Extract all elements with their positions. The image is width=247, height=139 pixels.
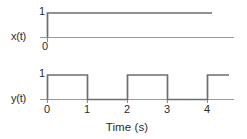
top-plot-group xyxy=(40,13,234,42)
x-tick-label-2: 2 xyxy=(120,104,134,115)
top-origin-zero-label: 0 xyxy=(42,41,48,52)
x-axis-title: Time (s) xyxy=(86,122,168,134)
x-tick-label-0: 0 xyxy=(40,104,54,115)
x-tick-label-3: 3 xyxy=(160,104,174,115)
x-of-t-waveform xyxy=(48,13,213,38)
y-of-t-waveform xyxy=(48,75,230,100)
top-level-one-label: 1 xyxy=(39,6,45,17)
bottom-plot-group xyxy=(40,75,234,103)
top-signal-label: x(t) xyxy=(11,31,26,42)
waveform-canvas xyxy=(0,0,247,139)
bottom-level-one-label: 1 xyxy=(39,68,45,79)
bottom-signal-label: y(t) xyxy=(11,93,26,104)
x-tick-label-4: 4 xyxy=(200,104,214,115)
x-tick-label-1: 1 xyxy=(80,104,94,115)
signal-waveform-figure: x(t) y(t) 1 0 1 0 1 2 3 4 Time (s) xyxy=(0,0,247,139)
